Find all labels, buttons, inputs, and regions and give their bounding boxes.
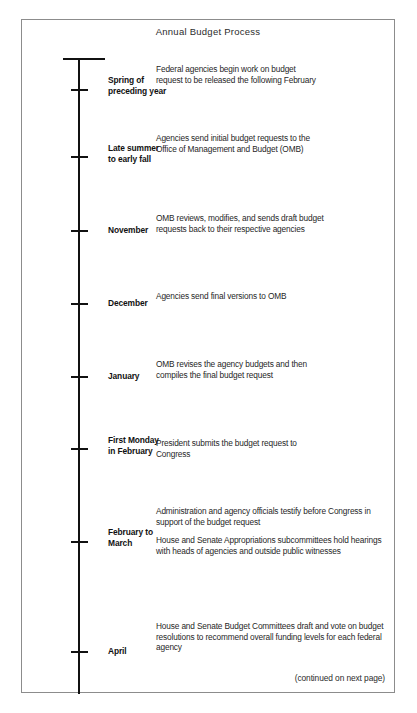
timeline-event-description: OMB reviews, modifies, and sends draft b… — [156, 213, 334, 234]
period-label-line: preceding year — [108, 86, 174, 97]
timeline-event-paragraph: Agencies send final versions to OMB — [156, 291, 324, 302]
figure-title: Annual Budget Process — [22, 26, 394, 37]
timeline-event-paragraph: President submits the budget request to … — [156, 438, 324, 459]
timeline-event-paragraph: House and Senate Appropriations subcommi… — [156, 535, 384, 556]
timeline-event-paragraph: OMB revises the agency budgets and then … — [156, 359, 334, 380]
timeline-tick-marker — [71, 448, 88, 450]
timeline-tick-marker — [71, 376, 88, 378]
timeline-event-description: Federal agencies begin work on budget re… — [156, 64, 324, 85]
timeline-event-paragraph: House and Senate Budget Committees draft… — [156, 621, 384, 653]
period-label-line: to early fall — [108, 154, 174, 165]
timeline-event-paragraph: Administration and agency officials test… — [156, 506, 384, 527]
timeline-axis-top-cap — [63, 58, 105, 60]
timeline-figure-frame: Annual Budget Process Spring ofpreceding… — [21, 19, 395, 693]
timeline-event-description: President submits the budget request to … — [156, 438, 324, 459]
timeline-event-description: Agencies send initial budget requests to… — [156, 133, 324, 154]
timeline-tick-marker — [71, 89, 88, 91]
continued-on-next-page-note: (continued on next page) — [295, 673, 385, 683]
timeline-event-description: Agencies send final versions to OMB — [156, 291, 324, 302]
timeline-tick-marker — [71, 156, 88, 158]
timeline-event-description: Administration and agency officials test… — [156, 506, 384, 556]
timeline-event-description: House and Senate Budget Committees draft… — [156, 621, 384, 653]
timeline-event-description: OMB revises the agency budgets and then … — [156, 359, 334, 380]
timeline-tick-marker — [71, 541, 88, 543]
timeline-tick-marker — [71, 303, 88, 305]
timeline-event-paragraph: Agencies send initial budget requests to… — [156, 133, 324, 154]
timeline-tick-marker — [71, 230, 88, 232]
timeline-tick-marker — [71, 651, 88, 653]
timeline-event-paragraph: Federal agencies begin work on budget re… — [156, 64, 324, 85]
timeline-event-paragraph: OMB reviews, modifies, and sends draft b… — [156, 213, 334, 234]
